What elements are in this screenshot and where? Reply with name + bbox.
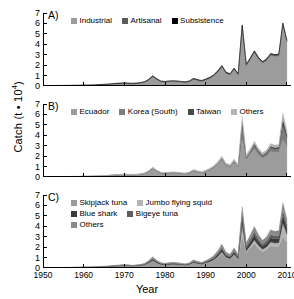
panel-b-legend: EcuadorKorea (South)TaiwanOthers — [71, 107, 271, 118]
legend-label: Others — [80, 220, 104, 230]
legend-item: Artisanal — [122, 16, 162, 26]
panel-a-plot: A) IndustrialArtisanalSubsistence 765432… — [43, 13, 291, 86]
legend-swatch-icon — [231, 109, 237, 115]
y-tick-label: 1 — [26, 253, 40, 262]
legend-label: Taiwan — [196, 107, 221, 117]
legend-swatch-icon — [188, 109, 194, 115]
panel-c-legend: Skipjack tunaJumbo flying squidBlue shar… — [71, 198, 219, 231]
y-axis-label-close: ) — [12, 81, 24, 85]
y-tick-label: 2 — [26, 152, 40, 161]
y-tick-label: 1 — [26, 162, 40, 171]
x-axis-title: Year — [0, 283, 294, 295]
legend-swatch-icon — [71, 18, 77, 24]
panel-c-letter: C) — [48, 191, 59, 203]
x-tick-label: 1970 — [115, 270, 134, 280]
legend-swatch-icon — [122, 18, 128, 24]
legend-label: Skipjack tuna — [80, 198, 128, 208]
y-tick-label: 2 — [26, 61, 40, 70]
legend-item: Skipjack tuna — [71, 198, 127, 208]
legend-label: Jumbo flying squid — [146, 198, 212, 208]
y-tick-label: 4 — [26, 222, 40, 231]
x-tick-label: 1980 — [155, 270, 174, 280]
area-series-ecuador — [43, 138, 287, 177]
legend-label: Korea (South) — [128, 107, 178, 117]
y-tick-label: 6 — [26, 201, 40, 210]
y-tick-label: 5 — [26, 29, 40, 38]
y-tick-label: 4 — [26, 40, 40, 49]
y-tick-label: 3 — [26, 141, 40, 150]
panel-a-legend: IndustrialArtisanalSubsistence — [71, 16, 231, 27]
legend-row: Blue sharkBigeye tuna — [71, 209, 219, 219]
x-tick-label: 2000 — [237, 270, 256, 280]
y-axis-label-text: Catch (t • 10 — [12, 89, 24, 152]
x-tick-label: 1950 — [34, 270, 53, 280]
panel-a: A) IndustrialArtisanalSubsistence 765432… — [43, 13, 291, 86]
x-tick-label: 1960 — [74, 270, 93, 280]
legend-item: Blue shark — [71, 209, 117, 219]
y-tick-label: 3 — [26, 232, 40, 241]
y-tick-label: 4 — [26, 131, 40, 140]
panel-c-plot: C) Skipjack tunaJumbo flying squidBlue s… — [43, 195, 291, 268]
legend-item: Industrial — [71, 16, 112, 26]
y-tick-label: 5 — [26, 211, 40, 220]
legend-item: Ecuador — [71, 107, 109, 117]
legend-row: Skipjack tunaJumbo flying squid — [71, 198, 219, 208]
legend-label: Artisanal — [130, 16, 161, 26]
legend-item: Taiwan — [188, 107, 221, 117]
x-tick-label: 1990 — [196, 270, 215, 280]
legend-row: IndustrialArtisanalSubsistence — [71, 16, 231, 26]
legend-swatch-icon — [137, 200, 143, 206]
legend-row: Others — [71, 220, 219, 230]
y-tick-label: 7 — [26, 191, 40, 200]
y-tick-label: 3 — [26, 50, 40, 59]
legend-label: Industrial — [80, 16, 112, 26]
y-tick-label: 2 — [26, 243, 40, 252]
panel-a-letter: A) — [48, 9, 59, 21]
y-tick-label: 6 — [26, 110, 40, 119]
y-tick-label: 1 — [26, 71, 40, 80]
legend-swatch-icon — [71, 211, 77, 217]
panel-b-letter: B) — [48, 100, 59, 112]
y-tick-label: 0 — [26, 173, 40, 182]
legend-label: Others — [240, 107, 264, 117]
panel-b: B) EcuadorKorea (South)TaiwanOthers 7654… — [43, 104, 291, 177]
panel-c: C) Skipjack tunaJumbo flying squidBlue s… — [43, 195, 291, 268]
legend-swatch-icon — [71, 109, 77, 115]
legend-swatch-icon — [119, 109, 125, 115]
area-series-industrial — [43, 25, 287, 86]
legend-swatch-icon — [71, 222, 77, 228]
legend-swatch-icon — [172, 18, 178, 24]
y-axis-label-exponent: 4 — [10, 85, 19, 89]
panel-b-plot: B) EcuadorKorea (South)TaiwanOthers 7654… — [43, 104, 291, 177]
y-tick-label: 7 — [26, 100, 40, 109]
legend-item: Jumbo flying squid — [137, 198, 212, 208]
legend-item: Korea (South) — [119, 107, 177, 117]
legend-label: Subsistence — [180, 16, 224, 26]
legend-item: Others — [71, 220, 104, 230]
x-tick-label: 2010 — [277, 270, 294, 280]
legend-item: Others — [231, 107, 264, 117]
legend-swatch-icon — [127, 211, 133, 217]
legend-row: EcuadorKorea (South)TaiwanOthers — [71, 107, 271, 117]
figure-root: Catch (t • 104) A) IndustrialArtisanalSu… — [0, 0, 294, 299]
y-tick-label: 7 — [26, 9, 40, 18]
y-tick-label: 5 — [26, 120, 40, 129]
legend-swatch-icon — [71, 200, 77, 206]
legend-label: Ecuador — [80, 107, 110, 117]
legend-label: Blue shark — [80, 209, 118, 219]
y-tick-label: 6 — [26, 19, 40, 28]
legend-label: Bigeye tuna — [136, 209, 178, 219]
y-tick-label: 0 — [26, 82, 40, 91]
legend-item: Subsistence — [172, 16, 224, 26]
legend-item: Bigeye tuna — [127, 209, 178, 219]
y-axis-label: Catch (t • 104) — [10, 72, 24, 162]
